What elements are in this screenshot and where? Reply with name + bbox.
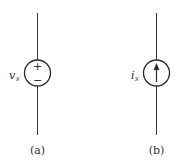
- circuit-diagram: + − v s (a) i s (b): [0, 0, 187, 166]
- current-label-sub: s: [135, 75, 139, 83]
- voltage-label-var: v: [9, 69, 16, 82]
- plus-sign: +: [33, 60, 42, 73]
- minus-sign: −: [33, 74, 42, 87]
- current-label-var: i: [131, 69, 135, 82]
- caption-a: (a): [30, 144, 45, 157]
- voltage-source-a: + − v s (a): [9, 13, 51, 157]
- current-source-b: i s (b): [131, 13, 170, 157]
- caption-b: (b): [149, 144, 165, 157]
- voltage-label-sub: s: [16, 75, 20, 83]
